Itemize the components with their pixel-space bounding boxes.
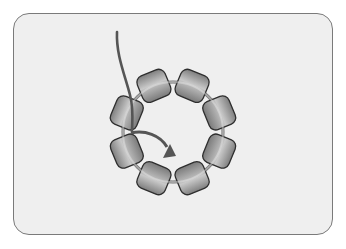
bead-ring-diagram: [0, 0, 346, 249]
